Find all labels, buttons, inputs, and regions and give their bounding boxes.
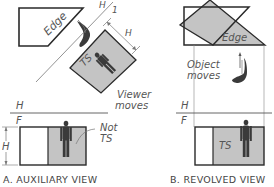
object-moves-label-1: Object xyxy=(187,59,221,70)
fold-label-h: H xyxy=(99,0,106,10)
viewer-moves-label-2: moves xyxy=(115,100,148,111)
diagram-canvas: Edge H 1 TS H xyxy=(0,0,274,187)
edge-label-b: Edge xyxy=(222,32,247,43)
caption-revolved-view: B. REVOLVED VIEW xyxy=(170,174,266,185)
panel-revolved-view: Edge Object moves H F TS xyxy=(170,0,272,185)
fold-f-b: F xyxy=(181,115,187,126)
aux-height-label: H xyxy=(125,28,132,38)
hand-rotate-icon xyxy=(232,52,247,83)
panel-auxiliary-view: Edge H 1 TS H xyxy=(2,0,152,185)
object-moves-label-2: moves xyxy=(187,70,220,81)
viewer-head-icon xyxy=(77,20,90,47)
fold-label-1: 1 xyxy=(112,5,118,15)
ts-label-b: TS xyxy=(219,140,232,151)
front-height-label-text: H xyxy=(2,141,10,152)
fold-h-b: H xyxy=(181,100,189,111)
not-ts-label-2: TS xyxy=(100,133,113,144)
not-ts-label-1: Not xyxy=(100,122,119,133)
fold-h-a: H xyxy=(16,100,24,111)
fold-f-a: F xyxy=(16,115,22,126)
viewer-label-line1: Viewer xyxy=(117,89,152,100)
viewer-label-line2: moves xyxy=(115,100,148,111)
viewer-moves-label: Viewer xyxy=(117,89,152,100)
caption-auxiliary-view: A. AUXILIARY VIEW xyxy=(3,174,98,185)
